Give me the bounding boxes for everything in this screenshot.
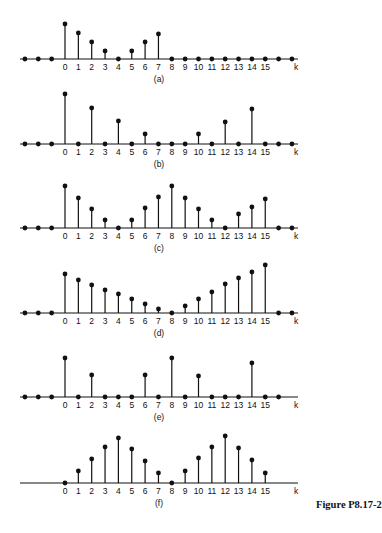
stem-marker [290,311,295,316]
tick-label: 6 [143,316,148,326]
stem-marker [103,288,108,293]
figure-caption: Figure P8.17-2 [316,499,382,510]
stem-marker [196,57,201,62]
stem-marker [250,205,255,210]
stem-marker [250,57,255,62]
tick-label: 8 [169,486,174,496]
tick-label: 4 [116,316,121,326]
stem-marker [290,142,295,147]
tick-label: 3 [103,231,108,241]
tick-label: 9 [183,400,188,410]
tick-label: 9 [183,231,188,241]
stem-marker [89,283,94,288]
stem-marker [236,57,241,62]
stem-marker [223,282,228,287]
tick-label: 11 [207,400,216,410]
axis-label-k: k [294,231,299,241]
stem-marker [196,207,201,212]
tick-label: 13 [234,486,244,496]
tick-label: 0 [63,62,68,72]
stem-marker [263,395,268,400]
panel-f: 0123456789101112131415k(f) [20,434,299,508]
stem-marker [49,395,54,400]
stem-marker [223,395,228,400]
tick-label: 7 [156,486,161,496]
stem-marker [36,311,41,316]
tick-label: 10 [194,147,204,157]
stem-marker [36,226,41,231]
stem-marker [183,469,188,474]
tick-label: 12 [220,147,230,157]
stem-marker [276,57,281,62]
stem-marker [183,142,188,147]
tick-label: 9 [183,316,188,326]
stem-marker [116,292,121,297]
stem-marker [143,206,148,211]
tick-label: 15 [261,486,271,496]
tick-label: 13 [234,400,244,410]
stem-marker [290,57,295,62]
tick-label: 2 [89,316,94,326]
tick-label: 11 [207,62,216,72]
stem-marker [223,226,228,231]
stem-marker [143,132,148,137]
stem-marker [196,132,201,137]
panel-d: 0123456789101112131415k(d) [20,263,299,338]
tick-label: 0 [63,147,68,157]
tick-label: 4 [116,231,121,241]
tick-label: 15 [261,62,271,72]
tick-label: 4 [116,147,121,157]
tick-label: 8 [169,400,174,410]
tick-label: 12 [220,316,230,326]
tick-label: 0 [63,486,68,496]
stem-marker [89,373,94,378]
tick-label: 1 [76,147,81,157]
stem-marker [76,278,81,283]
stem-marker [156,195,161,200]
tick-label: 0 [63,316,68,326]
stem-marker [276,226,281,231]
tick-label: 15 [261,400,271,410]
stem-marker [89,40,94,45]
tick-label: 14 [247,400,257,410]
tick-label: 15 [261,147,271,157]
tick-label: 2 [89,147,94,157]
stem-marker [63,272,68,277]
tick-label: 9 [183,486,188,496]
tick-label: 0 [63,231,68,241]
stem-marker [169,142,174,147]
stem-marker [89,106,94,111]
stem-marker [23,226,28,231]
stem-marker [116,119,121,124]
stem-marker [143,373,148,378]
tick-label: 9 [183,62,188,72]
stem-marker [263,57,268,62]
stem-marker [103,49,108,54]
stem-marker [76,469,81,474]
stem-marker [250,361,255,366]
tick-label: 12 [220,231,230,241]
stem-marker [49,311,54,316]
tick-label: 10 [194,62,204,72]
stem-marker [49,226,54,231]
stem-marker [36,57,41,62]
panel-a: 0123456789101112131415k(a) [20,22,299,84]
tick-label: 13 [234,231,244,241]
tick-label: 11 [207,147,216,157]
stem-marker [236,276,241,281]
stem-marker [89,207,94,212]
stem-marker [156,395,161,400]
stem-marker [116,57,121,62]
stem-marker [169,184,174,189]
tick-label: 15 [261,316,271,326]
tick-label: 1 [76,316,81,326]
stem-marker [103,142,108,147]
stem-marker [129,297,134,302]
tick-label: 6 [143,486,148,496]
tick-label: 9 [183,147,188,157]
axis-label-k: k [294,62,299,72]
stem-marker [236,212,241,217]
stem-marker [236,142,241,147]
tick-label: 12 [220,400,230,410]
stem-marker [209,290,214,295]
